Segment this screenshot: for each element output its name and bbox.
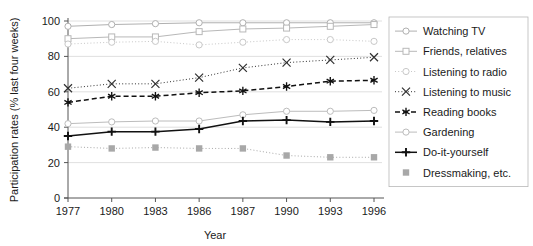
data-point bbox=[240, 39, 246, 45]
y-tick-label: 0 bbox=[54, 192, 60, 204]
series-line bbox=[68, 80, 374, 102]
legend-item-label: Listening to radio bbox=[423, 66, 507, 78]
data-point bbox=[108, 80, 116, 88]
data-point bbox=[108, 127, 116, 135]
legend-item-label: Gardening bbox=[423, 126, 474, 138]
data-point bbox=[371, 107, 377, 113]
legend-item-label: Friends, relatives bbox=[423, 45, 507, 57]
data-point bbox=[240, 20, 246, 26]
y-tick-label: 60 bbox=[48, 86, 60, 98]
legend-box bbox=[389, 17, 528, 187]
legend-marker bbox=[403, 48, 409, 54]
series-dressmaking-etc bbox=[65, 143, 377, 160]
data-series-layer bbox=[64, 20, 378, 161]
data-point bbox=[283, 36, 289, 42]
data-point bbox=[151, 127, 159, 135]
data-point bbox=[109, 39, 115, 45]
y-axis-title: Participation rates (% last four weeks) bbox=[8, 18, 20, 203]
data-point bbox=[195, 125, 203, 133]
legend-marker bbox=[403, 68, 409, 74]
x-tick-label: 1996 bbox=[362, 205, 386, 217]
data-point bbox=[371, 154, 377, 160]
x-tick-label: 1993 bbox=[318, 205, 342, 217]
x-tick-label: 1980 bbox=[99, 205, 123, 217]
data-point bbox=[196, 20, 202, 26]
chart-figure: Participation rates (% last four weeks) … bbox=[0, 0, 533, 246]
x-tick-label: 1990 bbox=[274, 205, 298, 217]
legend-marker bbox=[403, 129, 409, 135]
legend-item-label: Do-it-yourself bbox=[423, 146, 489, 158]
data-point bbox=[283, 108, 289, 114]
data-point bbox=[284, 25, 290, 31]
series-reading-books bbox=[64, 76, 377, 107]
data-point bbox=[371, 38, 377, 44]
data-point bbox=[65, 121, 71, 127]
data-point bbox=[152, 118, 158, 124]
data-point bbox=[282, 116, 290, 124]
legend-item-label: Dressmaking, etc. bbox=[423, 167, 511, 179]
data-point bbox=[152, 144, 158, 150]
data-point bbox=[64, 132, 72, 140]
data-point bbox=[196, 118, 202, 124]
data-point bbox=[196, 42, 202, 48]
y-tick-label: 20 bbox=[48, 157, 60, 169]
data-point bbox=[196, 29, 202, 35]
data-point bbox=[326, 118, 334, 126]
data-point bbox=[239, 117, 247, 125]
data-point bbox=[371, 22, 377, 28]
x-tick-label: 1986 bbox=[187, 205, 211, 217]
legend-marker bbox=[403, 169, 409, 175]
data-point bbox=[65, 143, 71, 149]
legend-item-label: Listening to music bbox=[423, 86, 512, 98]
x-tick-label: 1987 bbox=[231, 205, 255, 217]
legend-item-label: Reading books bbox=[423, 106, 497, 118]
legend-marker bbox=[403, 28, 409, 34]
legend-item-label: Watching TV bbox=[423, 25, 486, 37]
data-point bbox=[327, 154, 333, 160]
data-point bbox=[152, 38, 158, 44]
data-point bbox=[109, 21, 115, 27]
data-point bbox=[326, 56, 334, 64]
y-tick-label: 100 bbox=[42, 15, 60, 27]
data-point bbox=[327, 36, 333, 42]
data-point bbox=[196, 145, 202, 151]
y-axis-ticks: 020406080100 bbox=[42, 15, 68, 204]
data-point bbox=[109, 119, 115, 125]
x-axis-title: Year bbox=[204, 229, 227, 241]
line-chart: Participation rates (% last four weeks) … bbox=[0, 0, 533, 246]
data-point bbox=[152, 21, 158, 27]
x-axis-ticks: 19771980198319861987199019931996 bbox=[56, 198, 386, 217]
data-point bbox=[65, 41, 71, 47]
y-tick-label: 80 bbox=[48, 50, 60, 62]
data-point bbox=[370, 53, 378, 61]
data-point bbox=[370, 117, 378, 125]
data-point bbox=[109, 145, 115, 151]
data-point bbox=[283, 152, 289, 158]
series-listening-to-music bbox=[64, 53, 378, 92]
data-point bbox=[240, 145, 246, 151]
data-point bbox=[240, 26, 246, 32]
x-tick-label: 1977 bbox=[56, 205, 80, 217]
data-point bbox=[327, 23, 333, 29]
x-tick-label: 1983 bbox=[143, 205, 167, 217]
data-point bbox=[195, 74, 203, 82]
data-point bbox=[327, 108, 333, 114]
data-point bbox=[65, 23, 71, 29]
y-tick-label: 40 bbox=[48, 121, 60, 133]
chart-legend: Watching TVFriends, relativesListening t… bbox=[389, 17, 528, 187]
